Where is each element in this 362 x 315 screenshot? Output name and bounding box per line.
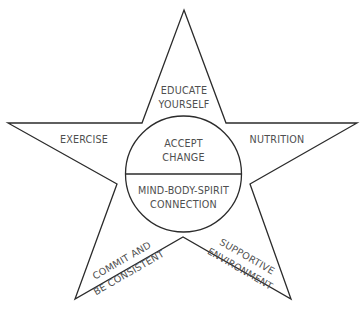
star-diagram: ACCEPT CHANGE MIND-BODY-SPIRIT CONNECTIO… <box>0 0 362 315</box>
right-point-label: NUTRITION <box>250 134 305 145</box>
center-top-label-line2: CHANGE <box>162 152 204 163</box>
center-top-label-line1: ACCEPT <box>164 138 203 149</box>
left-point-label: EXERCISE <box>60 134 108 145</box>
center-bottom-label-line1: MIND-BODY-SPIRIT <box>138 185 229 196</box>
top-point-label-line2: YOURSELF <box>157 99 209 110</box>
center-bottom-label-line2: CONNECTION <box>150 199 217 210</box>
top-point-label-line1: EDUCATE <box>161 85 207 96</box>
